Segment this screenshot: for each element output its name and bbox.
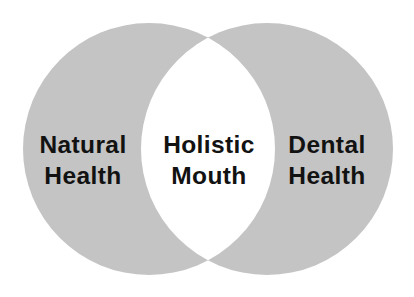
label-holistic-mouth-line1: Holistic (163, 129, 255, 160)
label-holistic-mouth-line2: Mouth (163, 160, 255, 191)
label-dental-health-line2: Health (288, 160, 365, 191)
venn-diagram: Natural Health Holistic Mouth Dental Hea… (0, 0, 414, 297)
label-natural-health: Natural Health (39, 129, 126, 191)
label-dental-health-line1: Dental (288, 129, 365, 160)
label-natural-health-line2: Health (39, 160, 126, 191)
label-dental-health: Dental Health (288, 129, 365, 191)
label-natural-health-line1: Natural (39, 129, 126, 160)
label-holistic-mouth: Holistic Mouth (163, 129, 255, 191)
